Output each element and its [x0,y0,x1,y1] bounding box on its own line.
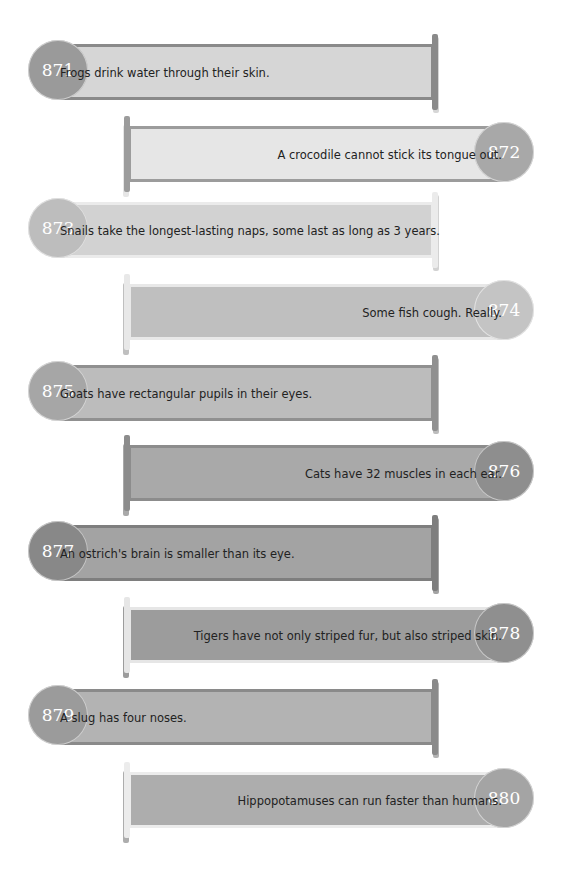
band-post [124,762,130,838]
fact-text: A slug has four noses. [60,683,187,753]
band-post [124,274,130,350]
fact-item: 880 Hippopotamuses can run faster than h… [124,766,534,836]
fact-text: Tigers have not only striped fur, but al… [194,601,502,671]
fact-text: Snails take the longest-lasting naps, so… [60,196,440,266]
band-post [432,679,438,755]
fact-item: 875 Goats have rectangular pupils in the… [28,359,438,429]
fact-item: 874 Some fish cough. Really. [124,278,534,348]
fact-item: 877 An ostrich's brain is smaller than i… [28,519,438,589]
fact-item: 878 Tigers have not only striped fur, bu… [124,601,534,671]
fact-item: 879 A slug has four noses. [28,683,438,753]
fact-text: Hippopotamuses can run faster than human… [238,766,502,836]
fact-text: A crocodile cannot stick its tongue out. [277,120,502,190]
fact-item: 873 Snails take the longest-lasting naps… [28,196,438,266]
band-post [124,597,130,673]
fact-item: 872 A crocodile cannot stick its tongue … [124,120,534,190]
band-post [124,435,130,511]
fact-text: Goats have rectangular pupils in their e… [60,359,312,429]
fact-text: Some fish cough. Really. [362,278,502,348]
band-post [124,116,130,192]
fact-item: 871 Frogs drink water through their skin… [28,38,438,108]
fact-text: Cats have 32 muscles in each ear. [305,439,502,509]
fact-item: 876 Cats have 32 muscles in each ear. [124,439,534,509]
fact-text: An ostrich's brain is smaller than its e… [60,519,295,589]
band-post [432,34,438,110]
fact-text: Frogs drink water through their skin. [60,38,270,108]
band-post [432,515,438,591]
band-post [432,355,438,431]
